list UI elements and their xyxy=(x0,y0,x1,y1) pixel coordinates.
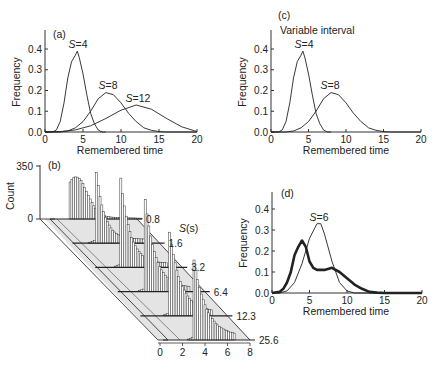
series-line xyxy=(45,105,197,132)
annotation-s4: S=4 xyxy=(69,38,88,50)
panel-b-depth-label: S(s) xyxy=(179,222,198,234)
x-tick-label: 4 xyxy=(202,347,208,358)
y-tick-label: 0.4 xyxy=(255,204,269,215)
x-tick-label: 20 xyxy=(416,295,428,306)
series-line xyxy=(45,51,106,132)
y-tick-label: 0.1 xyxy=(28,106,42,117)
y-tick-label: 0.4 xyxy=(254,44,268,55)
panel-b-ytick-zero: 0 xyxy=(27,213,33,224)
annotation-s8: S=8 xyxy=(99,79,118,91)
annotation-d-s6: S=6 xyxy=(310,211,329,223)
y-tick-label: 0.3 xyxy=(255,225,269,236)
series-line xyxy=(271,51,331,132)
panel-d-xlabel: Remembered time xyxy=(303,305,390,317)
y-tick-label: 0.3 xyxy=(254,64,268,75)
figure-canvas: 051015200.00.10.20.30.4 (a) Remembered t… xyxy=(0,0,441,370)
x-tick-label: 0 xyxy=(42,134,48,145)
series-line xyxy=(45,93,197,132)
panel-b-ylabel: Count xyxy=(4,182,16,210)
x-tick-label: 0 xyxy=(269,295,275,306)
panel-b-label: (b) xyxy=(48,159,61,171)
annotation-s12: S=12 xyxy=(126,92,151,104)
panel-b-ytick-max: 350 xyxy=(16,161,33,172)
panel-c: 051015200.00.10.20.30.4 (c) Variable int… xyxy=(236,9,427,156)
y-tick-label: 0.4 xyxy=(28,44,42,55)
panel-a-ylabel: Frequency xyxy=(10,56,22,106)
panel-a: 051015200.00.10.20.30.4 (a) Remembered t… xyxy=(10,28,203,156)
panel-d: 051015200.00.10.20.30.4 (d) Remembered t… xyxy=(237,187,428,317)
series-line xyxy=(272,241,422,294)
panel-d-label: (d) xyxy=(281,187,294,199)
y-tick-label: 0.2 xyxy=(254,85,268,96)
series-line xyxy=(271,93,421,132)
panel-d-ylabel: Frequency xyxy=(237,217,249,267)
panel-c-xlabel: Remembered time xyxy=(303,144,390,156)
y-tick-label: 0.3 xyxy=(28,64,42,75)
x-tick-label: 0 xyxy=(157,347,163,358)
row-label: 1.6 xyxy=(169,238,183,249)
y-tick-label: 0.1 xyxy=(254,106,268,117)
x-tick-label: 0 xyxy=(268,134,274,145)
row-label: 0.8 xyxy=(146,214,160,225)
row-label: 12.3 xyxy=(236,311,256,322)
annotation-c-s4: S=4 xyxy=(295,38,314,50)
x-tick-label: 2 xyxy=(180,347,186,358)
y-tick-label: 0.0 xyxy=(254,127,268,138)
row-label: 25.6 xyxy=(259,335,279,346)
row-label: 3.2 xyxy=(191,262,205,273)
panel-c-ylabel: Frequency xyxy=(236,56,248,106)
x-tick-label: 20 xyxy=(191,134,203,145)
annotation-c-s8: S=8 xyxy=(321,79,340,91)
histogram-row xyxy=(69,177,142,219)
x-tick-label: 6 xyxy=(225,347,231,358)
panel-c-label: (c) xyxy=(278,9,290,21)
panel-a-label: (a) xyxy=(53,28,66,40)
panel-c-subtitle: Variable interval xyxy=(280,24,355,36)
y-tick-label: 0.2 xyxy=(28,85,42,96)
y-tick-label: 0.0 xyxy=(28,127,42,138)
row-label: 6.4 xyxy=(214,287,228,298)
x-tick-label: 8 xyxy=(247,347,253,358)
panel-a-xlabel: Remembered time xyxy=(77,144,164,156)
y-tick-label: 0.1 xyxy=(255,267,269,278)
x-tick-label: 20 xyxy=(415,134,427,145)
y-tick-label: 0.2 xyxy=(255,246,269,257)
y-tick-label: 0.0 xyxy=(255,288,269,299)
